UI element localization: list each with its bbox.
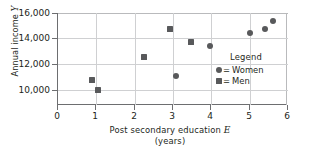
x-tick-label-5: 5 [239,112,259,121]
plot-frame-right [286,13,287,105]
data-point-women [173,73,179,79]
legend-title: Legend [208,52,284,64]
gridline-x-3 [173,13,174,105]
y-tick-label-16000: 16,000 [5,9,50,18]
plot-area: Legend = Women = Men [57,13,287,105]
x-tick-mark-1 [95,105,96,110]
scatter-chart: Annual income Y 16,000 14,000 12,000 10,… [0,0,309,155]
legend-equals-sign: = [222,76,232,86]
x-tick-label-2: 2 [124,112,144,121]
data-point-women [247,30,253,36]
data-point-men [188,39,194,45]
data-point-men [89,77,95,83]
x-tick-label-4: 4 [200,112,220,121]
x-tick-label-0: 0 [47,112,67,121]
legend-equals-sign: = [222,65,232,75]
data-point-women [207,43,213,49]
x-tick-label-1: 1 [85,112,105,121]
x-tick-label-6: 6 [277,112,297,121]
x-tick-mark-5 [249,105,250,110]
data-point-men [167,26,173,32]
y-tick-label-12000: 12,000 [5,60,50,69]
y-tick-label-14000: 14,000 [5,34,50,43]
x-axis-title: Post secondary education E (years) [45,125,295,146]
x-tick-label-3: 3 [162,112,182,121]
x-axis-subtitle: (years) [45,136,295,147]
x-axis-title-variable: E [224,125,231,135]
x-tick-mark-4 [210,105,211,110]
x-tick-mark-0 [57,105,58,110]
x-axis-title-text: Post secondary education [110,125,224,135]
data-point-men [95,87,101,93]
legend-label-men: Men [232,76,250,86]
legend: Legend = Women = Men [208,52,284,86]
data-point-women [270,18,276,24]
data-point-men [141,54,147,60]
legend-item-men: = Men [208,75,284,86]
x-tick-mark-6 [287,105,288,110]
legend-item-women: = Women [208,64,284,75]
x-tick-mark-3 [172,105,173,110]
legend-label-women: Women [232,65,264,75]
x-tick-mark-2 [134,105,135,110]
y-tick-label-10000: 10,000 [5,86,50,95]
data-point-women [262,26,268,32]
gridline-x-2 [135,13,136,105]
